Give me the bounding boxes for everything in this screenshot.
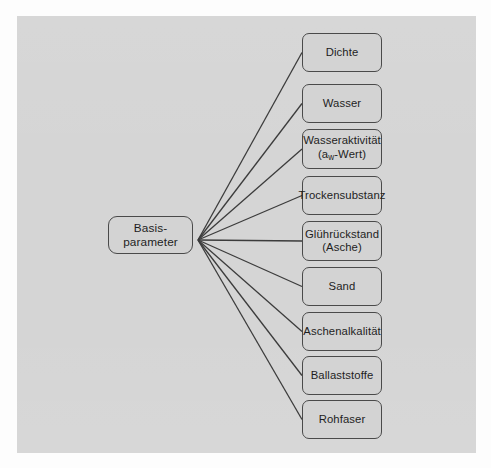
node-branch-1[interactable]: Wasser [302, 84, 382, 123]
edge-to-branch-3 [198, 196, 302, 241]
edge-to-branch-7 [198, 240, 302, 376]
node-branch-1-label: Wasser [320, 97, 364, 110]
node-branch-3-label: Trockensubstanz [295, 189, 388, 202]
node-branch-3[interactable]: Trockensubstanz [302, 176, 382, 215]
node-basisparameter[interactable]: Basis- parameter [108, 216, 193, 254]
node-branch-7[interactable]: Ballaststoffe [302, 356, 382, 395]
node-branch-4[interactable]: Glührückstand(Asche) [302, 221, 382, 261]
node-basisparameter-label: Basis- parameter [120, 221, 181, 250]
node-branch-4-label: Glührückstand(Asche) [302, 228, 382, 254]
edge-to-branch-0 [198, 53, 302, 241]
node-branch-6-label: Aschenalkalität [300, 325, 383, 338]
node-branch-0-label: Dichte [323, 46, 362, 59]
edge-to-branch-4 [198, 240, 302, 241]
edge-to-branch-6 [198, 240, 302, 332]
edge-to-branch-1 [198, 104, 302, 241]
node-branch-2[interactable]: Wasseraktivität(aw-Wert) [302, 129, 382, 169]
node-branch-2-label: Wasseraktivität(aw-Wert) [300, 134, 384, 163]
diagram-canvas: Basis- parameter DichteWasserWasseraktiv… [0, 0, 491, 468]
node-branch-5[interactable]: Sand [302, 267, 382, 306]
edge-to-branch-5 [198, 240, 302, 287]
node-branch-5-label: Sand [326, 280, 359, 293]
connector-edges [0, 0, 491, 468]
node-branch-8[interactable]: Rohfaser [302, 400, 382, 439]
edge-to-branch-2 [198, 149, 302, 240]
edge-to-branch-8 [198, 240, 302, 420]
node-branch-7-label: Ballaststoffe [308, 369, 377, 382]
node-branch-6[interactable]: Aschenalkalität [302, 312, 382, 351]
node-branch-0[interactable]: Dichte [302, 33, 382, 72]
node-branch-8-label: Rohfaser [316, 413, 369, 426]
subscript-w: w [328, 153, 334, 162]
